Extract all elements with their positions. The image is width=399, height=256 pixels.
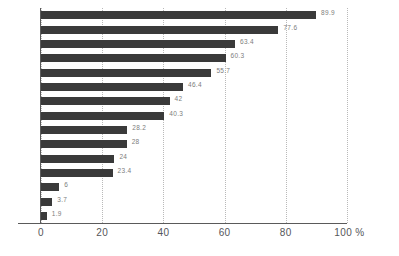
- gridline-100: [347, 8, 348, 223]
- bar: [41, 97, 170, 105]
- y-axis-labels: [7, 16, 39, 231]
- bar-row: 28: [41, 140, 347, 148]
- x-tick-label: 60: [219, 227, 231, 238]
- bar-row: 77.6: [41, 26, 347, 34]
- bar-row: 55.7: [41, 69, 347, 77]
- bar-chart: 89.977.663.460.355.746.44240.328.2282423…: [0, 0, 399, 256]
- bar: [41, 183, 59, 191]
- bar-row: 24: [41, 155, 347, 163]
- bar-value-label: 28.2: [132, 124, 146, 131]
- bar-value-label: 23.4: [118, 167, 132, 174]
- bar-row: 6: [41, 183, 347, 191]
- x-axis-line: [18, 223, 347, 224]
- bar: [41, 140, 127, 148]
- x-tick-label: 20: [96, 227, 108, 238]
- bar-value-label: 6: [64, 181, 68, 188]
- bar-row: 60.3: [41, 54, 347, 62]
- bar-value-label: 63.4: [240, 38, 254, 45]
- bar: [41, 69, 211, 77]
- bar-row: 42: [41, 97, 347, 105]
- bar-value-label: 42: [175, 95, 183, 102]
- bar-value-label: 55.7: [216, 67, 230, 74]
- bar-row: 3.7: [41, 198, 347, 206]
- bar: [41, 155, 114, 163]
- bar-value-label: 1.9: [52, 210, 62, 217]
- bar: [41, 126, 127, 134]
- bar: [41, 112, 164, 120]
- bar-value-label: 24: [119, 153, 127, 160]
- y-axis-line: [40, 8, 41, 224]
- plot-area: 89.977.663.460.355.746.44240.328.2282423…: [41, 8, 347, 223]
- bar-value-label: 3.7: [57, 196, 67, 203]
- bar-row: 23.4: [41, 169, 347, 177]
- bar: [41, 212, 47, 220]
- bar-value-label: 28: [132, 138, 140, 145]
- x-tick-label: 80: [280, 227, 292, 238]
- bar: [41, 26, 278, 34]
- x-tick-label: 40: [157, 227, 169, 238]
- bar-row: 1.9: [41, 212, 347, 220]
- bar-value-label: 60.3: [231, 52, 245, 59]
- x-tick-label: 100 %: [334, 227, 364, 238]
- bar-row: 28.2: [41, 126, 347, 134]
- bar-value-label: 89.9: [321, 9, 335, 16]
- bar: [41, 40, 235, 48]
- bar-value-label: 77.6: [283, 24, 297, 31]
- bar: [41, 11, 316, 19]
- bar: [41, 83, 183, 91]
- bar-row: 89.9: [41, 11, 347, 19]
- x-tick-label: 0: [38, 227, 44, 238]
- bar: [41, 54, 226, 62]
- bar-value-label: 40.3: [169, 110, 183, 117]
- bar: [41, 169, 113, 177]
- bar-row: 46.4: [41, 83, 347, 91]
- bar-row: 63.4: [41, 40, 347, 48]
- bar-row: 40.3: [41, 112, 347, 120]
- bar-value-label: 46.4: [188, 81, 202, 88]
- bar: [41, 198, 52, 206]
